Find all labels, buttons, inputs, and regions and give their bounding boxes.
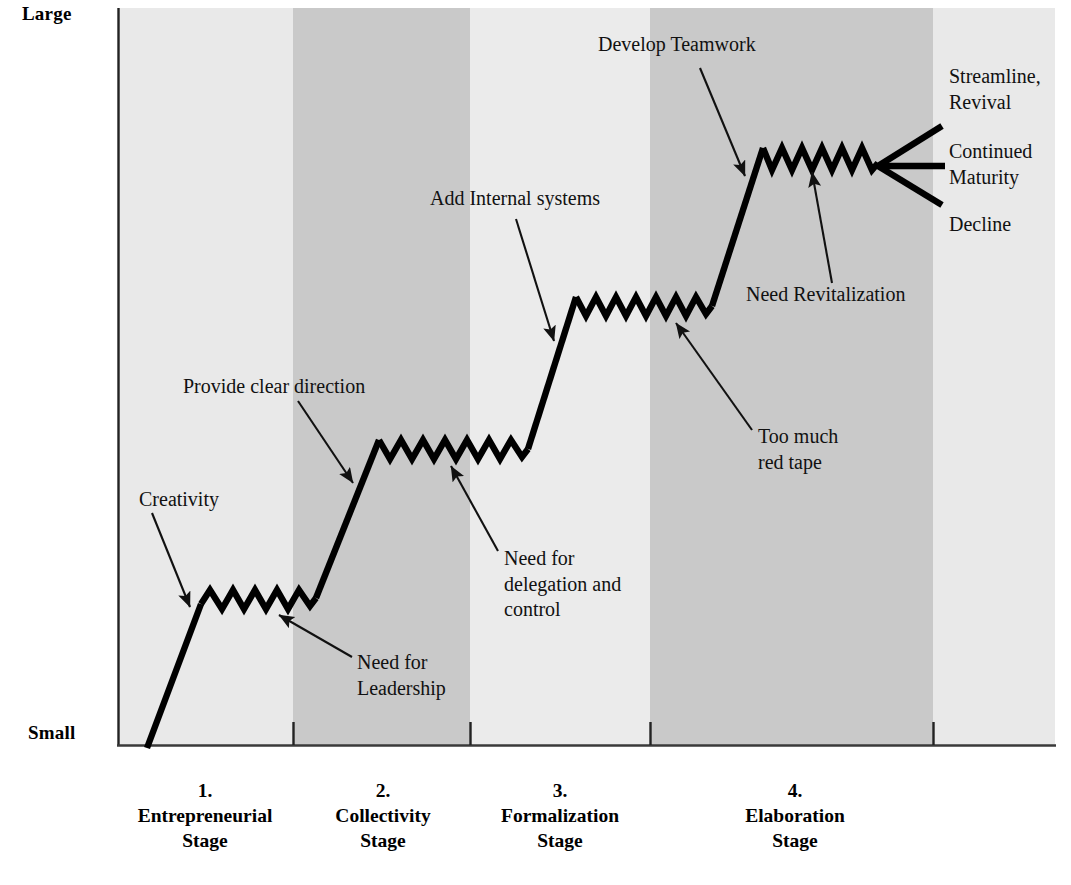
- annotation-too-much-red-tape: Too much red tape: [758, 424, 838, 475]
- annotation-provide-direction: Provide clear direction: [183, 374, 365, 400]
- stage-2-name: Collectivity: [298, 803, 468, 828]
- band-stage-5: [933, 8, 1055, 745]
- y-axis-label-small: Small: [28, 722, 75, 744]
- y-axis-label-large: Large: [22, 3, 72, 25]
- stage-1-number: 1.: [105, 778, 305, 803]
- stage-label-1: 1. Entrepreneurial Stage: [105, 778, 305, 853]
- stage-label-3: 3. Formalization Stage: [472, 778, 648, 853]
- band-stage-4: [650, 8, 933, 745]
- annotation-need-delegation: Need for delegation and control: [504, 546, 621, 623]
- annotation-decline: Decline: [949, 211, 1011, 237]
- annotation-develop-teamwork: Develop Teamwork: [598, 32, 756, 58]
- stage-3-number: 3.: [472, 778, 648, 803]
- stage-3-suffix: Stage: [472, 828, 648, 853]
- stage-1-name: Entrepreneurial: [105, 803, 305, 828]
- organization-lifecycle-chart: [0, 0, 1071, 885]
- stage-2-number: 2.: [298, 778, 468, 803]
- stage-3-name: Formalization: [472, 803, 648, 828]
- annotation-continued-maturity: Continued Maturity: [949, 138, 1032, 190]
- stage-4-suffix: Stage: [705, 828, 885, 853]
- stage-4-number: 4.: [705, 778, 885, 803]
- annotation-creativity: Creativity: [139, 487, 219, 513]
- stage-label-2: 2. Collectivity Stage: [298, 778, 468, 853]
- annotation-add-internal-systems: Add Internal systems: [430, 186, 600, 212]
- stage-4-name: Elaboration: [705, 803, 885, 828]
- annotation-streamline-revival: Streamline, Revival: [949, 63, 1041, 115]
- figure-canvas: Large Small 1. Entrepreneurial Stage 2. …: [0, 0, 1071, 885]
- stage-2-suffix: Stage: [298, 828, 468, 853]
- stage-label-4: 4. Elaboration Stage: [705, 778, 885, 853]
- band-stage-3: [470, 8, 650, 745]
- annotation-need-revitalization: Need Revitalization: [746, 282, 905, 308]
- annotation-need-leadership: Need for Leadership: [357, 650, 446, 701]
- stage-1-suffix: Stage: [105, 828, 305, 853]
